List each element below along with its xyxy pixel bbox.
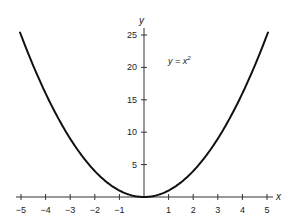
equation-exponent: 2 <box>186 55 191 61</box>
x-tick-label: 1 <box>166 205 171 215</box>
y-tick-label: 15 <box>127 95 137 105</box>
x-tick-label: 3 <box>215 205 220 215</box>
y-tick-label: 25 <box>127 30 137 40</box>
x-tick-label: −1 <box>114 205 124 215</box>
x-tick-label: −3 <box>65 205 75 215</box>
equation-main: y = x <box>167 56 188 66</box>
x-axis-label: x <box>275 191 282 202</box>
x-tick-label: 4 <box>240 205 245 215</box>
y-tick-label: 5 <box>132 160 137 170</box>
x-tick-label: −5 <box>16 205 26 215</box>
y-tick-label: 20 <box>127 62 137 72</box>
y-axis-label: y <box>138 15 145 26</box>
equation-label: y = x2 <box>167 55 191 66</box>
x-tick-label: 5 <box>264 205 269 215</box>
x-tick-label: −2 <box>90 205 100 215</box>
parabola-chart: −5−4−3−2−112345 510152025 x y y = x2 <box>0 0 298 223</box>
x-tick-label: −4 <box>40 205 50 215</box>
x-tick-label: 2 <box>191 205 196 215</box>
y-tick-label: 10 <box>127 127 137 137</box>
